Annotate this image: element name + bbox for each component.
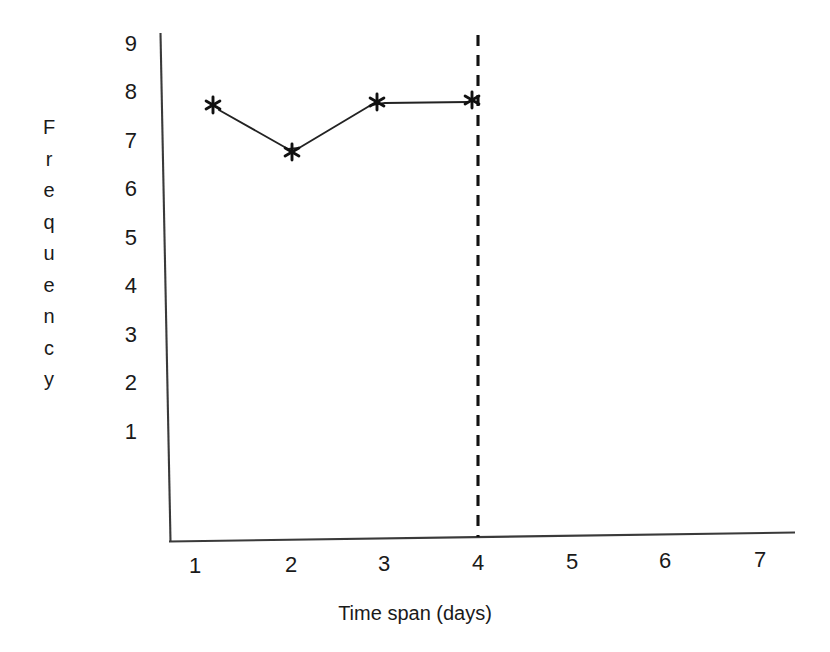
y-tick-label-5: 5	[111, 225, 137, 251]
y-axis-title-letter: e	[43, 270, 54, 302]
data-series-line	[219, 102, 468, 149]
x-tick-label-1: 1	[180, 553, 210, 579]
y-tick-label-2: 2	[111, 370, 137, 396]
y-axis-title-letter: c	[44, 333, 54, 365]
data-point-marker-3	[370, 94, 384, 110]
x-tick-label-6: 6	[650, 548, 680, 574]
y-axis-title-letter: y	[44, 364, 54, 396]
data-point-marker-2	[285, 144, 299, 160]
y-axis-title: F r e q u e n c y	[36, 112, 62, 396]
chart-figure: 9 8 7 6 5 4 3 2 1 1 2 3 4 5 6 7 F r e q …	[0, 0, 830, 652]
y-tick-label-8: 8	[111, 79, 137, 105]
y-axis-title-letter: u	[43, 238, 54, 270]
y-axis-title-letter: e	[43, 175, 54, 207]
y-tick-label-7: 7	[111, 128, 137, 154]
y-tick-label-6: 6	[111, 176, 137, 202]
y-axis-title-letter: r	[46, 144, 53, 176]
x-axis-title: Time span (days)	[0, 602, 830, 625]
x-tick-label-4: 4	[463, 550, 493, 576]
y-axis-line	[161, 33, 171, 542]
y-axis-title-letter: q	[43, 207, 54, 239]
data-point-marker-1	[206, 97, 220, 113]
y-axis-title-letter: F	[43, 112, 55, 144]
y-tick-label-3: 3	[111, 322, 137, 348]
x-axis-line	[169, 533, 795, 542]
x-tick-label-5: 5	[557, 549, 587, 575]
y-tick-label-9: 9	[111, 31, 137, 57]
x-tick-label-3: 3	[369, 551, 399, 577]
x-tick-label-2: 2	[276, 552, 306, 578]
y-tick-label-4: 4	[111, 273, 137, 299]
x-tick-label-7: 7	[745, 547, 775, 573]
y-axis-title-letter: n	[43, 301, 54, 333]
y-tick-label-1: 1	[111, 419, 137, 445]
